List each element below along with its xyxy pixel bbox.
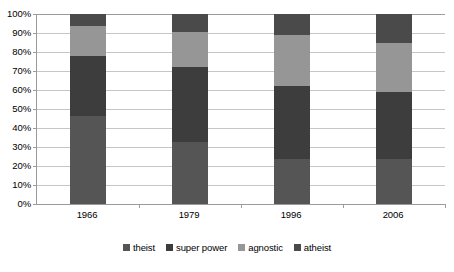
y-tick-label: 50%	[12, 104, 31, 114]
stacked-bar[interactable]	[274, 14, 310, 204]
x-tick-label: 1996	[281, 210, 302, 220]
bar-segment-atheist[interactable]	[376, 14, 412, 43]
bar-group[interactable]	[376, 14, 412, 204]
legend-item-atheist[interactable]: atheist	[294, 243, 331, 253]
bar-segment-atheist[interactable]	[70, 14, 106, 26]
y-tick-label: 30%	[12, 142, 31, 152]
legend-item-theist[interactable]: theist	[123, 243, 155, 253]
x-tickmark	[241, 204, 242, 208]
bar-group[interactable]	[172, 14, 208, 204]
plot-area	[36, 14, 445, 205]
legend-label: theist	[133, 243, 155, 253]
y-tick-label: 20%	[12, 161, 31, 171]
y-tick-label: 10%	[12, 180, 31, 190]
y-tick-label: 60%	[12, 85, 31, 95]
bar-segment-theist[interactable]	[274, 159, 310, 204]
x-tickmark	[445, 204, 446, 208]
legend-label: super power	[176, 243, 227, 253]
y-tick-label: 40%	[12, 123, 31, 133]
bar-segment-agnostic[interactable]	[70, 26, 106, 55]
bar-segment-agnostic[interactable]	[376, 43, 412, 92]
y-tick-label: 100%	[7, 9, 31, 19]
bar-segment-theist[interactable]	[172, 142, 208, 204]
y-tick-label: 0%	[17, 199, 31, 209]
x-axis: 1966197919962006	[36, 210, 444, 228]
x-tick-label: 1966	[77, 210, 98, 220]
legend-label: agnostic	[248, 243, 283, 253]
bar-segment-agnostic[interactable]	[274, 35, 310, 86]
bar-segment-super-power[interactable]	[70, 56, 106, 116]
stacked-bar[interactable]	[376, 14, 412, 204]
bar-segment-super-power[interactable]	[376, 92, 412, 159]
bar-segment-atheist[interactable]	[274, 14, 310, 35]
y-tick-label: 80%	[12, 47, 31, 57]
legend-swatch-icon	[238, 244, 245, 251]
x-tick-label: 1979	[179, 210, 200, 220]
legend-swatch-icon	[294, 244, 301, 251]
bar-group[interactable]	[274, 14, 310, 204]
bar-segment-super-power[interactable]	[274, 86, 310, 159]
legend-label: atheist	[304, 243, 331, 253]
bar-segment-agnostic[interactable]	[172, 32, 208, 67]
x-tickmark	[343, 204, 344, 208]
legend-item-agnostic[interactable]: agnostic	[238, 243, 283, 253]
bars-layer	[37, 14, 445, 204]
y-tick-label: 70%	[12, 66, 31, 76]
legend-item-super-power[interactable]: super power	[166, 243, 227, 253]
bar-segment-theist[interactable]	[376, 159, 412, 204]
x-tickmark	[139, 204, 140, 208]
plot-wrapper: 0%10%20%30%40%50%60%70%80%90%100% 196619…	[0, 0, 454, 236]
y-tickmark	[33, 204, 37, 205]
bar-segment-super-power[interactable]	[172, 67, 208, 142]
y-axis: 0%10%20%30%40%50%60%70%80%90%100%	[0, 14, 34, 204]
y-tick-label: 90%	[12, 28, 31, 38]
x-tick-label: 2006	[383, 210, 404, 220]
legend-swatch-icon	[166, 244, 173, 251]
stacked-bar[interactable]	[172, 14, 208, 204]
bar-segment-atheist[interactable]	[172, 14, 208, 32]
stacked-bar[interactable]	[70, 14, 106, 204]
legend-swatch-icon	[123, 244, 130, 251]
chart-legend: theistsuper poweragnosticatheist	[0, 243, 454, 253]
stacked-bar-chart: 0%10%20%30%40%50%60%70%80%90%100% 196619…	[0, 0, 454, 272]
bar-segment-theist[interactable]	[70, 116, 106, 204]
bar-group[interactable]	[70, 14, 106, 204]
